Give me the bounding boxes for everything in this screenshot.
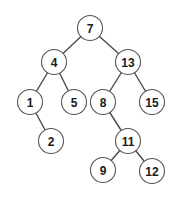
binary-tree-diagram: 741315815211912: [0, 0, 179, 197]
tree-node-5: 5: [62, 90, 87, 115]
tree-node-7: 7: [78, 16, 103, 41]
node-label: 5: [71, 96, 78, 110]
node-label: 1: [27, 96, 34, 110]
node-label: 15: [145, 96, 159, 110]
node-label: 9: [100, 164, 107, 178]
tree-node-2: 2: [39, 129, 64, 154]
tree-node-15: 15: [140, 90, 165, 115]
tree-node-8: 8: [91, 90, 116, 115]
node-label: 4: [51, 56, 58, 70]
tree-node-4: 4: [42, 50, 67, 75]
node-label: 8: [100, 96, 107, 110]
tree-node-12: 12: [140, 159, 165, 184]
tree-node-1: 1: [18, 90, 43, 115]
tree-node-9: 9: [91, 158, 116, 183]
node-label: 2: [48, 135, 55, 149]
node-label: 11: [122, 135, 135, 149]
tree-node-11: 11: [116, 129, 141, 154]
node-label: 7: [87, 22, 94, 36]
node-label: 13: [121, 56, 135, 70]
node-label: 12: [145, 165, 159, 179]
tree-node-13: 13: [116, 50, 141, 75]
